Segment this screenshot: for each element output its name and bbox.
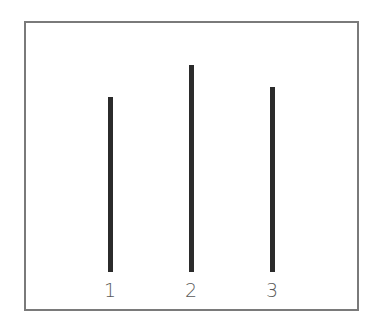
bar-3 bbox=[270, 87, 275, 272]
category-label-3: 3 bbox=[257, 279, 287, 301]
bar-1 bbox=[108, 97, 113, 272]
bar-2 bbox=[189, 65, 194, 272]
category-label-2: 2 bbox=[176, 279, 206, 301]
category-label-1: 1 bbox=[95, 279, 125, 301]
